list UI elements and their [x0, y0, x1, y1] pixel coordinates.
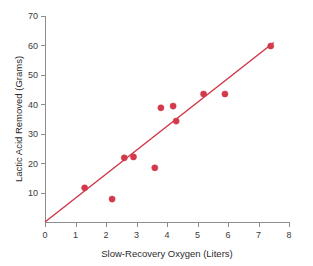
- data-point[interactable]: [173, 118, 179, 124]
- y-axis-tick-label: 40: [28, 100, 38, 110]
- data-point[interactable]: [268, 43, 274, 49]
- y-axis-tick-label: 60: [28, 41, 38, 51]
- y-axis-tick-label: 20: [28, 159, 38, 169]
- regression-line: [45, 42, 274, 222]
- y-axis-title: Lactic Acid Removed (Grams): [13, 56, 24, 182]
- y-axis-tick-label: 70: [28, 11, 38, 21]
- x-axis-tick-label: 7: [256, 230, 261, 240]
- x-axis-tick-label: 3: [134, 230, 139, 240]
- data-point[interactable]: [152, 165, 158, 171]
- data-point[interactable]: [201, 91, 207, 97]
- x-axis-tick-label: 2: [103, 230, 108, 240]
- x-axis-tick-label: 5: [195, 230, 200, 240]
- x-axis-title: Slow-Recovery Oxygen (Liters): [101, 248, 232, 259]
- y-axis-tick-label: 30: [28, 129, 38, 139]
- x-axis-tick-label: 6: [225, 230, 230, 240]
- data-point[interactable]: [222, 91, 228, 97]
- data-point[interactable]: [158, 105, 164, 111]
- x-axis-tick-label: 8: [286, 230, 291, 240]
- data-point[interactable]: [130, 154, 136, 160]
- y-axis-tick-label: 10: [28, 188, 38, 198]
- data-point[interactable]: [82, 185, 88, 191]
- x-axis-tick-label: 4: [164, 230, 169, 240]
- x-axis-tick-label: 1: [73, 230, 78, 240]
- scatter-chart-figure: 10203040506070012345678Slow-Recovery Oxy…: [0, 0, 313, 266]
- y-axis-tick-label: 50: [28, 70, 38, 80]
- x-axis-tick-label: 0: [42, 230, 47, 240]
- data-point[interactable]: [109, 196, 115, 202]
- data-point[interactable]: [170, 103, 176, 109]
- chart-canvas: 10203040506070012345678Slow-Recovery Oxy…: [0, 0, 313, 266]
- data-point[interactable]: [121, 155, 127, 161]
